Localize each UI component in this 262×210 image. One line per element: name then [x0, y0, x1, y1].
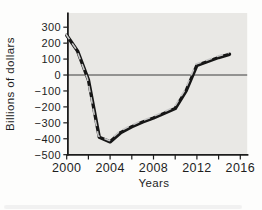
y-tick-label: 200 — [41, 37, 61, 49]
line-chart: 3002001000−100−200−300−400−5002000200420… — [0, 0, 262, 210]
y-tick-label: −500 — [35, 149, 61, 161]
y-tick-label: −200 — [35, 101, 61, 113]
y-tick-label: −100 — [35, 85, 61, 97]
plot-area — [68, 13, 248, 155]
page-edge-shadow — [4, 205, 242, 209]
y-tick-label: 300 — [41, 21, 61, 33]
x-tick-label: 2012 — [182, 161, 211, 175]
x-tick-label: 2016 — [226, 161, 255, 175]
y-tick-label: 100 — [41, 53, 61, 65]
x-tick-label: 2008 — [139, 161, 168, 175]
y-axis-title: Billions of dollars — [4, 37, 16, 131]
x-tick-label: 2000 — [52, 161, 81, 175]
x-tick-label: 2004 — [95, 161, 124, 175]
y-tick-label: −300 — [35, 117, 61, 129]
x-axis-title: Years — [139, 177, 170, 189]
balance-line-chart-figure: 3002001000−100−200−300−400−5002000200420… — [0, 0, 262, 210]
y-tick-label: 0 — [54, 69, 61, 81]
y-tick-label: −400 — [35, 133, 61, 145]
